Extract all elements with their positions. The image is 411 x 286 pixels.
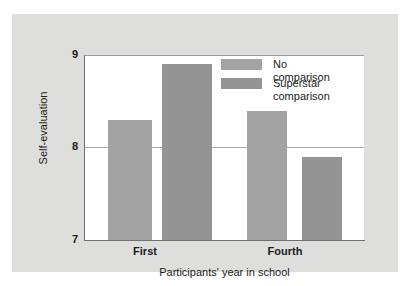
bar-first-no-comparison xyxy=(108,120,152,240)
x-tick-label-fourth: Fourth xyxy=(250,245,320,257)
x-axis-line xyxy=(84,240,365,241)
x-tick-label-first: First xyxy=(110,245,180,257)
bar-fourth-superstar xyxy=(302,157,342,240)
y-tick-label-8: 8 xyxy=(60,141,78,152)
legend-label-superstar: Superstar comparison xyxy=(273,77,330,102)
y-tick-label-7: 7 xyxy=(60,234,78,245)
legend-swatch-no-comparison xyxy=(221,59,262,70)
bar-fourth-no-comparison xyxy=(247,111,287,241)
chart-panel: 9 8 7 Self-evaluation First Fourth Parti… xyxy=(12,14,398,272)
y-axis-title: Self-evaluation xyxy=(37,78,49,178)
y-tick-label-9: 9 xyxy=(60,49,78,60)
figure: 9 8 7 Self-evaluation First Fourth Parti… xyxy=(0,0,411,286)
bar-first-superstar xyxy=(162,64,212,240)
x-axis-title: Participants' year in school xyxy=(84,266,365,278)
legend-item-superstar: Superstar comparison xyxy=(221,77,330,102)
legend-swatch-superstar xyxy=(221,78,262,89)
